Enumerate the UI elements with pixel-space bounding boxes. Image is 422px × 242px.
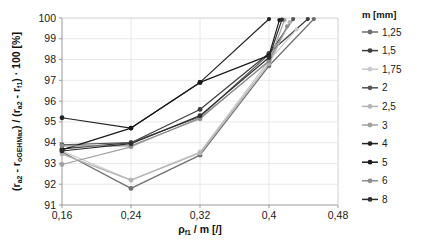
y-axis-title-part: ) / (r	[10, 109, 22, 129]
series-line	[62, 19, 269, 128]
x-tick-label: 0,48	[328, 209, 349, 221]
y-tick-label: 97	[44, 74, 56, 86]
series-1-5	[60, 17, 310, 151]
data-point	[198, 113, 203, 118]
y-axis-title-part: - r	[10, 88, 22, 101]
x-axis-tick-labels: 0,160,240,320,40,48	[52, 205, 349, 221]
y-axis-title-part: (r	[10, 183, 22, 191]
chart-screenshot: 0,160,240,320,40,48 91929394959697989910…	[0, 0, 422, 242]
legend-item-6[interactable]: 6	[362, 175, 388, 186]
x-tick-label: 0,32	[190, 209, 211, 221]
x-axis-title: ρf1 / m [/]	[178, 223, 222, 236]
y-tick-label: 96	[44, 95, 56, 107]
series-1-75	[60, 27, 299, 182]
legend-marker	[368, 48, 373, 53]
data-point	[60, 149, 65, 154]
y-tick-label: 91	[44, 199, 56, 211]
y-axis-title-subscript: a2	[16, 175, 23, 183]
data-point	[129, 141, 134, 146]
legend-title: m [mm]	[362, 9, 396, 20]
data-point	[129, 126, 134, 131]
data-point	[306, 17, 310, 21]
y-axis-title-part: - r	[10, 162, 22, 175]
y-axis-title: (ra2 - roGEHMax) / (ra2 - rf1) · 100 [%]	[10, 32, 23, 191]
legend-item-label: 3	[382, 120, 388, 131]
legend-item-2-5[interactable]: 2,5	[362, 101, 396, 112]
legend-item-label: 5	[382, 157, 388, 168]
series-6	[60, 24, 290, 148]
data-point	[291, 17, 295, 21]
line-chart: 0,160,240,320,40,48 91929394959697989910…	[0, 0, 422, 242]
legend-marker	[368, 30, 373, 35]
legend-marker	[368, 178, 373, 183]
data-point	[312, 17, 316, 21]
y-axis-title-subscript: oGEHMax	[16, 129, 23, 162]
legend-item-1-25[interactable]: 1,25	[362, 27, 402, 38]
legend-item-label: 8	[382, 194, 388, 205]
y-tick-label: 100	[38, 12, 56, 24]
y-tick-label: 94	[44, 136, 56, 148]
x-tick-label: 0,24	[121, 209, 142, 221]
y-tick-label: 99	[44, 32, 56, 44]
legend-marker	[368, 141, 373, 146]
series-line	[62, 20, 282, 151]
data-point	[285, 24, 289, 28]
x-axis-title-rest: / m [/]	[191, 223, 222, 235]
legend-item-1-75[interactable]: 1,75	[362, 64, 402, 75]
legend-item-2[interactable]: 2	[362, 82, 388, 93]
data-point	[267, 17, 271, 21]
data-point	[129, 186, 134, 191]
legend-item-4[interactable]: 4	[362, 138, 388, 149]
legend-marker	[368, 67, 373, 72]
y-axis-title-subscript: a2	[16, 101, 23, 109]
y-axis-tick-labels: 919293949596979899100	[38, 12, 62, 211]
data-point	[60, 115, 65, 120]
x-tick-label: 0,4	[262, 209, 277, 221]
chart-legend: m [mm]1,251,51,7522,534568	[362, 9, 402, 205]
chart-series-layer	[60, 17, 316, 191]
legend-item-label: 1,75	[382, 64, 402, 75]
y-tick-label: 98	[44, 53, 56, 65]
legend-item-label: 1,25	[382, 27, 402, 38]
series-1-25	[60, 17, 316, 191]
legend-item-label: 1,5	[382, 45, 396, 56]
legend-marker	[368, 104, 373, 109]
data-point	[129, 178, 134, 183]
legend-marker	[368, 85, 373, 90]
legend-item-label: 2	[382, 82, 388, 93]
y-tick-label: 95	[44, 115, 56, 127]
legend-marker	[368, 197, 373, 202]
data-point	[198, 151, 203, 156]
legend-item-3[interactable]: 3	[362, 120, 388, 131]
series-line	[62, 19, 293, 145]
series-line	[62, 29, 297, 180]
series-4	[60, 17, 272, 131]
legend-item-1-5[interactable]: 1,5	[362, 45, 396, 56]
y-tick-label: 92	[44, 178, 56, 190]
data-point	[280, 18, 284, 22]
data-point	[288, 20, 292, 24]
legend-marker	[368, 123, 373, 128]
series-3	[60, 18, 287, 167]
legend-item-label: 2,5	[382, 101, 396, 112]
data-point	[60, 143, 65, 148]
y-axis-title-part: ) · 100 [%]	[10, 32, 22, 82]
data-point	[267, 55, 272, 60]
data-point	[198, 80, 203, 85]
legend-item-label: 4	[382, 138, 388, 149]
data-point	[198, 107, 203, 112]
x-tick-label: 0,16	[52, 209, 73, 221]
legend-marker	[368, 160, 373, 165]
legend-item-5[interactable]: 5	[362, 157, 388, 168]
legend-item-label: 6	[382, 175, 388, 186]
legend-item-8[interactable]: 8	[362, 194, 388, 205]
data-point	[60, 162, 65, 167]
data-point	[295, 27, 299, 31]
y-tick-label: 93	[44, 157, 56, 169]
